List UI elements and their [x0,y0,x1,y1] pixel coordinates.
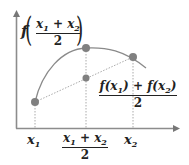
point-x2 [129,53,137,61]
y-axis-arrow-icon [13,10,20,17]
numerator: x1 + x2 [63,132,107,146]
right-paren: ) [76,12,83,46]
fraction-mean: x1 + x2 2 [36,18,80,47]
label-x2: x2 [124,133,137,146]
point-chord-mid [83,75,90,82]
numerator: x1 + x2 [36,18,80,32]
denominator: 2 [134,97,142,109]
denominator: 2 [81,149,89,161]
denominator: 2 [54,35,62,47]
left-paren: ( [25,12,32,46]
numerator: f(x1) + f(x2) [100,80,177,94]
label-xmid: x1 + x2 2 [62,132,108,161]
point-x1 [31,98,39,106]
label-mean-of-f: f(x1) + f(x2) 2 [99,80,177,109]
x-axis-arrow-icon [173,125,180,132]
label-x1: x1 [27,133,40,146]
